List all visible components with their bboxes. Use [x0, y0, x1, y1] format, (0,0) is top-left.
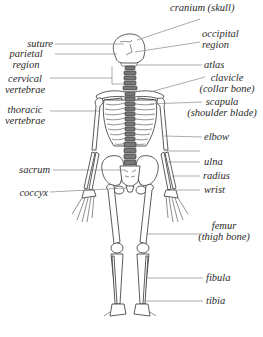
label-text: vertebrae [2, 84, 48, 95]
label-text: region [202, 39, 239, 50]
label-text: wrist [204, 184, 225, 195]
label-radius: radius [203, 170, 230, 181]
label-text: (shoulder blade) [182, 107, 262, 118]
label-scapula: scapula (shoulder blade) [182, 96, 262, 118]
leader-elbow [164, 136, 202, 137]
label-text: elbow [204, 131, 229, 142]
left-leg [104, 184, 126, 316]
right-leg [134, 184, 156, 316]
label-text: sacrum [19, 164, 50, 175]
label-elbow: elbow [204, 131, 229, 142]
label-text: atlas [204, 59, 224, 70]
leader-cranium [137, 19, 200, 40]
label-text: scapula [182, 96, 262, 107]
label-text: fibula [206, 272, 231, 283]
label-thoracic-vertebrae: thoracic vertebrae [2, 104, 48, 126]
label-ulna: ulna [204, 156, 223, 167]
label-text: occipital [202, 28, 239, 39]
label-text: clavicle [196, 72, 258, 83]
label-text: region [4, 59, 48, 70]
label-fibula: fibula [206, 272, 231, 283]
label-clavicle: clavicle (collar bone) [196, 72, 258, 94]
label-text: thoracic [2, 104, 48, 115]
spine [124, 92, 136, 165]
label-parietal-region: parietal region [4, 48, 48, 70]
label-text: (collar bone) [196, 83, 258, 94]
label-text: cranium (skull) [170, 2, 234, 13]
label-wrist: wrist [204, 184, 225, 195]
label-text: (thigh bone) [194, 231, 254, 242]
label-sacrum: sacrum [12, 164, 50, 175]
label-text: ulna [204, 156, 223, 167]
label-atlas: atlas [204, 59, 224, 70]
label-cranium: cranium (skull) [170, 2, 234, 13]
label-femur: femur (thigh bone) [194, 220, 254, 242]
label-cervical-vertebrae: cervical vertebrae [2, 73, 48, 95]
label-coccyx: coccyx [12, 187, 48, 198]
cervical-spine [123, 66, 137, 90]
label-tibia: tibia [206, 295, 225, 306]
label-text: coccyx [19, 187, 48, 198]
left-arm [72, 98, 103, 222]
label-text: radius [203, 170, 230, 181]
label-text: cervical [2, 73, 48, 84]
label-text: femur [194, 220, 254, 231]
label-occipital-region: occipital region [202, 28, 239, 50]
leader-cervical-bracket [112, 66, 124, 84]
label-text: parietal [4, 48, 48, 59]
label-text: vertebrae [2, 115, 48, 126]
label-text: tibia [206, 295, 225, 306]
